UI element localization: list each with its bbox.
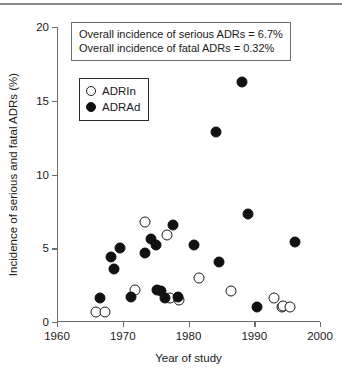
x-axis-title: Year of study	[57, 352, 320, 364]
filled-circle-icon	[86, 102, 96, 112]
y-tick-label: 15	[36, 95, 49, 107]
data-point-adrad	[237, 76, 248, 87]
legend-item-adrad: ADRAd	[86, 99, 140, 115]
y-tick-label: 5	[43, 242, 49, 254]
x-tick-mark	[189, 322, 190, 327]
x-tick-mark	[57, 322, 58, 327]
legend-box: ADRIn ADRAd	[79, 78, 149, 121]
data-point-adrin	[194, 272, 205, 283]
y-axis-line	[57, 27, 58, 322]
data-point-adrad	[159, 293, 170, 304]
legend-item-adrin: ADRIn	[86, 83, 140, 99]
legend-label-adrin: ADRIn	[102, 85, 136, 97]
annotation-line-serious: Overall incidence of serious ADRs = 6.7%	[79, 27, 283, 41]
data-point-adrad	[95, 293, 106, 304]
data-point-adrin	[225, 286, 236, 297]
y-tick-mark	[52, 175, 57, 176]
x-tick-mark	[254, 322, 255, 327]
x-tick-label: 2000	[307, 330, 333, 342]
data-point-adrin	[284, 302, 295, 313]
y-tick-label: 0	[43, 316, 49, 328]
y-tick-label: 10	[36, 169, 49, 181]
data-point-adrad	[150, 240, 161, 251]
annotation-box: Overall incidence of serious ADRs = 6.7%…	[71, 22, 291, 61]
y-tick-mark	[52, 101, 57, 102]
x-tick-mark	[123, 322, 124, 327]
annotation-line-fatal: Overall incidence of fatal ADRs = 0.32%	[79, 41, 283, 55]
data-point-adrad	[140, 247, 151, 258]
y-tick-mark	[52, 27, 57, 28]
data-point-adrin	[99, 306, 110, 317]
data-point-adrin	[140, 216, 151, 227]
x-tick-label: 1960	[44, 330, 70, 342]
figure-top-rule	[0, 3, 342, 5]
data-point-adrad	[211, 126, 222, 137]
x-tick-label: 1980	[176, 330, 202, 342]
data-point-adrad	[167, 219, 178, 230]
data-point-adrad	[172, 291, 183, 302]
data-point-adrad	[126, 291, 137, 302]
x-tick-mark	[320, 322, 321, 327]
legend-label-adrad: ADRAd	[102, 101, 140, 113]
data-point-adrad	[242, 209, 253, 220]
data-point-adrad	[108, 263, 119, 274]
data-point-adrad	[105, 252, 116, 263]
y-axis-title: Incidence of serious and fatal ADRs (%)	[5, 27, 21, 322]
scatter-chart-figure: Incidence of serious and fatal ADRs (%) …	[0, 0, 342, 377]
data-point-adrad	[188, 240, 199, 251]
plot-area: 05101520 19601970198019902000	[57, 27, 320, 322]
data-point-adrad	[290, 237, 301, 248]
open-circle-icon	[86, 86, 96, 96]
data-point-adrad	[251, 302, 262, 313]
x-tick-label: 1970	[110, 330, 136, 342]
data-point-adrad	[115, 243, 126, 254]
data-point-adrad	[213, 256, 224, 267]
data-point-adrin	[162, 229, 173, 240]
x-tick-label: 1990	[241, 330, 267, 342]
y-tick-label: 20	[36, 21, 49, 33]
y-tick-mark	[52, 248, 57, 249]
